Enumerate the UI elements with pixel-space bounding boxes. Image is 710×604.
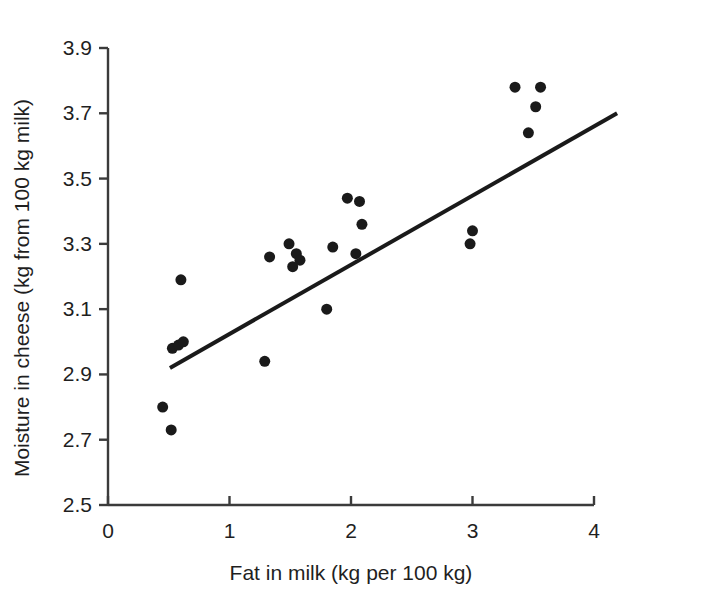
data-point [287, 261, 298, 272]
y-axis-ticks [99, 48, 108, 505]
data-point [327, 242, 338, 253]
x-tick-label: 2 [345, 519, 357, 543]
y-tick-label: 3.9 [63, 36, 92, 60]
y-tick-label: 3.5 [63, 167, 92, 191]
data-point [284, 238, 295, 249]
y-axis-label-wrap: Moisture in cheese (kg from 100 kg milk) [0, 0, 44, 604]
data-point [535, 82, 546, 93]
x-tick-label: 0 [102, 519, 114, 543]
data-point [178, 336, 189, 347]
x-tick-label: 3 [467, 519, 479, 543]
x-axis-label: Fat in milk (kg per 100 kg) [108, 561, 594, 585]
y-tick-label: 3.1 [63, 297, 92, 321]
x-axis-ticks [108, 496, 594, 505]
fit-line [170, 113, 617, 368]
y-tick-label: 2.9 [63, 362, 92, 386]
data-point [259, 356, 270, 367]
y-tick-label: 3.7 [63, 101, 92, 125]
y-tick-label: 2.5 [63, 493, 92, 517]
data-point [321, 304, 332, 315]
y-tick-label: 3.3 [63, 232, 92, 256]
data-point [342, 193, 353, 204]
data-point [166, 424, 177, 435]
y-tick-label: 2.7 [63, 428, 92, 452]
y-axis-label: Moisture in cheese (kg from 100 kg milk) [10, 38, 34, 538]
data-point [356, 219, 367, 230]
data-point [175, 274, 186, 285]
data-point [465, 238, 476, 249]
x-tick-label: 1 [224, 519, 236, 543]
plot-canvas [0, 0, 710, 604]
data-point [523, 127, 534, 138]
data-point [264, 251, 275, 262]
data-point [157, 402, 168, 413]
data-point [510, 82, 521, 93]
data-point [467, 225, 478, 236]
scatter-plot-figure: 2.52.72.93.13.33.53.73.9 01234 Moisture … [0, 0, 710, 604]
x-tick-label: 4 [588, 519, 600, 543]
data-point [530, 101, 541, 112]
data-point [354, 196, 365, 207]
data-point [350, 248, 361, 259]
regression-line [170, 113, 617, 368]
data-points [157, 82, 546, 436]
